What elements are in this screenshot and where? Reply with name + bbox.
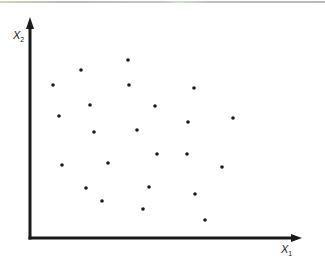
axes xyxy=(26,17,302,242)
data-points xyxy=(51,58,235,222)
data-point xyxy=(106,161,110,165)
data-point xyxy=(141,207,145,211)
data-point xyxy=(186,120,190,124)
x-axis-label: X1 xyxy=(281,243,292,257)
data-point xyxy=(185,152,189,156)
data-point xyxy=(88,103,92,107)
data-point xyxy=(220,165,224,169)
data-point xyxy=(231,116,235,120)
data-point xyxy=(60,163,64,167)
data-point xyxy=(84,186,88,190)
scatter-plot xyxy=(0,0,325,266)
x-axis-arrow-icon xyxy=(291,234,302,242)
data-point xyxy=(192,86,196,90)
data-point xyxy=(127,83,131,87)
x-axis-label-subscript: 1 xyxy=(288,250,292,257)
data-point xyxy=(92,130,96,134)
y-axis-arrow-icon xyxy=(26,17,34,29)
data-point xyxy=(126,58,130,62)
data-point xyxy=(155,152,159,156)
data-point xyxy=(193,192,197,196)
data-point xyxy=(203,218,207,222)
y-axis-label: X2 xyxy=(13,29,24,43)
data-point xyxy=(147,185,151,189)
data-point xyxy=(79,68,83,72)
data-point xyxy=(153,104,157,108)
y-axis-label-subscript: 2 xyxy=(20,36,24,43)
data-point xyxy=(57,114,61,118)
data-point xyxy=(135,128,139,132)
data-point xyxy=(100,199,104,203)
data-point xyxy=(51,83,55,87)
